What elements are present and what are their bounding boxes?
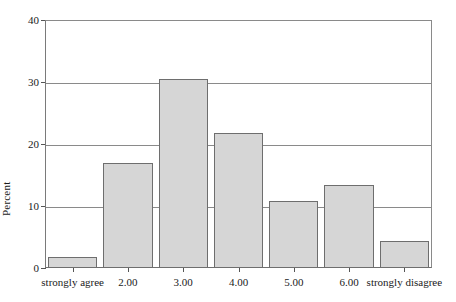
bar-chart-figure: Percent 010203040 strongly agree2.003.00… <box>0 0 456 302</box>
bar <box>103 163 152 268</box>
x-tick-mark <box>183 268 184 272</box>
bar-series <box>45 20 432 268</box>
x-tick-mark <box>294 268 295 272</box>
bar <box>159 79 208 268</box>
x-tick-mark <box>128 268 129 272</box>
y-tick-label: 40 <box>13 15 39 26</box>
bar <box>324 185 373 268</box>
y-tick-label: 30 <box>13 77 39 88</box>
x-tick-label: strongly disagree <box>354 276 454 289</box>
bar <box>48 257 97 268</box>
x-tick-mark <box>404 268 405 272</box>
y-tick-label: 10 <box>13 201 39 212</box>
x-tick-mark <box>73 268 74 272</box>
x-tick-mark <box>349 268 350 272</box>
bar <box>269 201 318 268</box>
y-tick-mark <box>41 268 46 269</box>
y-tick-label: 0 <box>13 263 39 274</box>
bar <box>380 241 429 268</box>
x-tick-mark <box>239 268 240 272</box>
y-tick-label: 20 <box>13 139 39 150</box>
bar <box>214 133 263 268</box>
